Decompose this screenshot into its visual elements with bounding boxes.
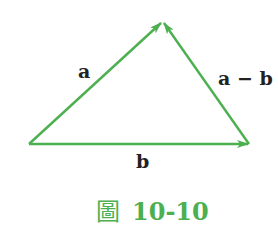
vector-a-arrow <box>29 23 161 144</box>
figure-caption: 圖 10-10 <box>96 200 209 224</box>
caption-figure-number: 10-10 <box>132 200 209 224</box>
vector-triangle-figure: a a − b b 圖 10-10 <box>0 0 278 241</box>
vector-a-minus-b-label: a − b <box>218 69 273 88</box>
vector-b-label: b <box>136 152 149 171</box>
caption-figure-char: 圖 <box>96 200 120 224</box>
vector-a-label: a <box>78 62 90 81</box>
